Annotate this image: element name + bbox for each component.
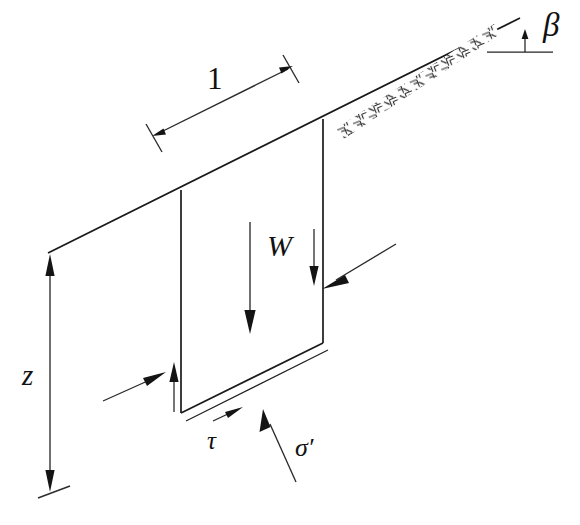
shear-stress-label: τ [207, 427, 217, 454]
slice-width-label: 1 [207, 61, 223, 96]
left-side-force-arrows [103, 362, 179, 412]
depth-label: z [21, 359, 33, 391]
normal-stress-group: σ′ [260, 409, 314, 482]
slice-width-dimension: 1 [146, 55, 299, 152]
soil-slice-parallelogram [181, 119, 328, 421]
slope-stability-diagram: β 1 W [0, 0, 580, 525]
figure-root: β 1 W [0, 0, 580, 525]
beta-angle-label: β [542, 7, 560, 43]
ground-hatch-pattern [320, 10, 520, 160]
weight-force-label: W [267, 229, 295, 262]
depth-dimension: z [21, 254, 70, 498]
ground-surface-line [48, 18, 520, 253]
weight-force-arrow: W [244, 222, 295, 334]
slip-surface-line [181, 343, 323, 413]
shear-stress-group: τ [207, 407, 243, 454]
normal-stress-label: σ′ [295, 433, 314, 462]
